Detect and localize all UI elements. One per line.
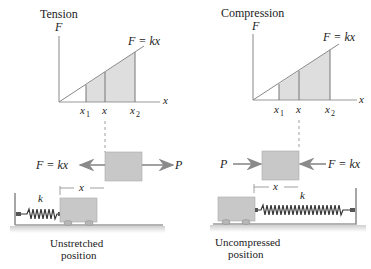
tick-x1: x [79, 104, 85, 116]
displacement-label: x [78, 181, 84, 193]
block [218, 197, 255, 221]
force-line-label: F = kx [322, 30, 356, 44]
compression-graph: Compression F F = kx x x 1 x x 2 [221, 6, 364, 150]
displacement-label: x [272, 180, 278, 192]
svg-text:1: 1 [280, 109, 284, 118]
tick-x: x [101, 104, 107, 116]
x-axis-label: x [162, 94, 168, 106]
svg-text:x: x [273, 103, 279, 115]
tension-spring-system: k Unstretched position [10, 192, 165, 261]
tension-graph: Tension F F = kx x x 1 x x 2 [40, 7, 168, 152]
spring-force-label: F = kx [35, 158, 69, 172]
svg-text:x: x [324, 103, 330, 115]
svg-text:x: x [295, 103, 301, 115]
block [105, 152, 142, 181]
wheel [222, 220, 230, 225]
svg-text:2: 2 [331, 109, 335, 118]
applied-force-label: P [174, 158, 183, 172]
caption: Unstretched [50, 237, 104, 249]
compression-spring-system: k Uncompressed position [210, 188, 366, 260]
tension-free-body: F = kx P x [35, 152, 183, 195]
applied-force-label: P [219, 157, 228, 171]
compression-y-axis-label: F [251, 19, 260, 33]
caption: Uncompressed [215, 236, 281, 248]
tension-y-axis-label: F [54, 20, 63, 34]
wheel [85, 221, 93, 226]
work-area-shade [86, 52, 135, 102]
tick-x2: x [129, 104, 135, 116]
work-area-shade [279, 50, 330, 100]
svg-text:2: 2 [136, 110, 140, 119]
block [262, 151, 299, 180]
x-axis-label: x [358, 93, 364, 105]
spring [258, 205, 350, 215]
caption: position [61, 249, 97, 261]
wheel [64, 221, 72, 226]
spring-constant-label: k [38, 192, 44, 204]
spring-force-label: F = kx [327, 157, 361, 171]
block [60, 198, 97, 222]
spring-constant-label: k [300, 189, 306, 201]
spring [21, 209, 60, 219]
svg-text:1: 1 [86, 110, 90, 119]
caption: position [228, 248, 264, 260]
tension-title: Tension [40, 7, 78, 21]
force-line-label: F = kx [127, 34, 161, 48]
compression-free-body: P F = kx x [219, 151, 361, 193]
compression-title: Compression [221, 6, 284, 20]
wheel [242, 220, 250, 225]
